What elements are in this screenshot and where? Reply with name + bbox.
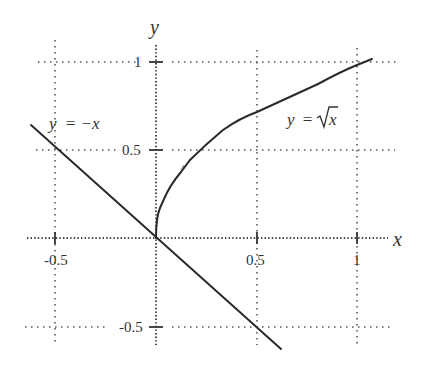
x-tick-label-half: 0.5	[246, 252, 265, 268]
grid-lines	[25, 40, 398, 345]
curves	[31, 59, 372, 349]
x-tick-label-one: 1	[353, 252, 361, 268]
ticks	[55, 62, 357, 327]
curve-label-sqrt-var: x	[328, 110, 337, 129]
axes	[27, 45, 388, 345]
svg-text:y =: y =	[285, 110, 312, 129]
y-tick-label-one: 1	[134, 54, 142, 70]
curve-label-neg-x-rhs: = −x	[65, 114, 100, 133]
y-tick-label-half: 0.5	[122, 142, 141, 158]
curve-label-sqrt-x: y = x	[285, 107, 338, 129]
x-tick-label-neg-half: -0.5	[44, 252, 68, 268]
y-tick-label-neg-half: -0.5	[119, 319, 143, 335]
curve-label-neg-x: y = −x	[47, 114, 100, 133]
y-axis-label: y	[148, 16, 159, 39]
function-plot: -0.5 0.5 1 1 0.5 -0.5 y x y = −x y = x	[0, 0, 423, 369]
curve-label-sqrt-lhs: y	[285, 110, 295, 129]
x-axis-label: x	[392, 228, 402, 250]
tick-labels: -0.5 0.5 1 1 0.5 -0.5	[44, 54, 361, 335]
curve-y-sqrt-x	[156, 59, 372, 238]
curve-label-sqrt-eq: =	[303, 110, 313, 129]
curve-label-neg-x-lhs: y	[47, 114, 57, 133]
svg-text:y = −x: y = −x	[47, 114, 100, 133]
